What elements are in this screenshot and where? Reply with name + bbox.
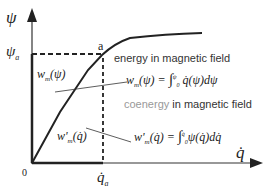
point-a-label: a xyxy=(98,40,103,52)
x-axis-arrow-icon xyxy=(250,158,263,168)
y-axis-arrow-icon xyxy=(27,8,37,22)
x-axis-label: q̇ xyxy=(236,144,245,161)
energy-coenergy-diagram: ψ ψa 0 q̇a q̇ a energy in magnetic field… xyxy=(0,0,275,195)
origin-label: 0 xyxy=(22,168,27,178)
coenergy-leader-line xyxy=(86,128,131,142)
energy-formula: wm(ψ) = ∫ψ0 q̇(ψ)dψ xyxy=(126,72,217,89)
coenergy-region-label: w'm(q̇) xyxy=(57,130,87,145)
coenergy-caption: coenergy in magnetic field xyxy=(124,99,252,110)
y-tick-label-psi-a: ψa xyxy=(6,44,19,62)
coenergy-word: coenergy xyxy=(124,98,169,110)
energy-region-label: wm(ψ) xyxy=(37,68,66,83)
energy-caption: energy in magnetic field xyxy=(114,53,230,64)
y-axis-label: ψ xyxy=(6,9,17,26)
coenergy-formula: w'm(q̇) = ∫q̇0ψ(q̇)dq̇ xyxy=(134,129,221,146)
energy-leader-line xyxy=(55,82,127,92)
coenergy-rest: in magnetic field xyxy=(169,98,252,110)
x-tick-label-q-a: q̇a xyxy=(97,170,109,188)
